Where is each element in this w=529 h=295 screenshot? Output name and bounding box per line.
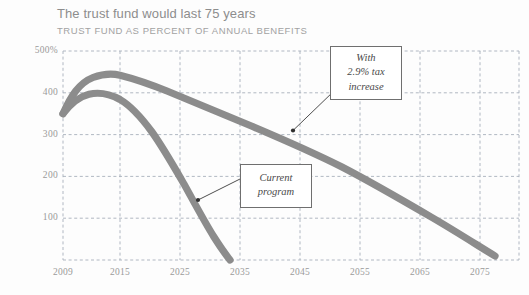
chart-subtitle: TRUST FUND AS PERCENT OF ANNUAL BENEFITS: [57, 25, 307, 36]
y-tick-100: 100: [12, 212, 58, 222]
x-tick-2015: 2015: [110, 267, 130, 277]
y-tick-500: 500%: [12, 45, 58, 55]
x-tick-2045: 2045: [290, 267, 310, 277]
plot-area: [63, 51, 519, 260]
callout-current-line-1: Current: [247, 171, 305, 185]
y-tick-400: 400: [12, 87, 58, 97]
x-tick-2035: 2035: [230, 267, 250, 277]
x-tick-2025: 2025: [170, 267, 190, 277]
x-tick-2009: 2009: [53, 267, 73, 277]
chart-figure: The trust fund would last 75 years TRUST…: [0, 0, 529, 295]
y-tick-300: 300: [12, 129, 58, 139]
chart-title: The trust fund would last 75 years: [57, 6, 256, 21]
y-axis-labels: 500% 400 300 200 100: [0, 51, 58, 260]
annotation-leaders-layer: [63, 51, 519, 260]
x-tick-2075: 2075: [470, 267, 490, 277]
annotation-callout-tax-increase: With 2.9% tax increase: [330, 46, 402, 100]
annotation-callout-current-program: Current program: [240, 164, 312, 208]
callout-tax-line-3: increase: [337, 80, 395, 94]
leader-line-current: [198, 179, 240, 200]
leader-dot-tax: [291, 128, 295, 132]
x-axis-labels: 2009 2015 2025 2035 2045 2055 2065 2075: [63, 267, 519, 281]
x-tick-2065: 2065: [410, 267, 430, 277]
callout-current-line-2: program: [247, 185, 305, 199]
x-tick-2055: 2055: [350, 267, 370, 277]
leader-line-tax: [293, 90, 335, 131]
callout-tax-line-2: 2.9% tax: [337, 65, 395, 79]
callout-tax-line-1: With: [337, 51, 395, 65]
y-tick-200: 200: [12, 170, 58, 180]
leader-dot-current: [196, 198, 200, 202]
